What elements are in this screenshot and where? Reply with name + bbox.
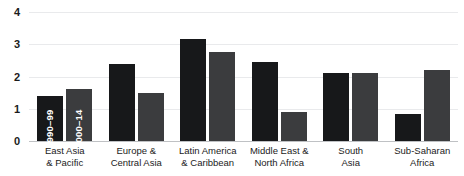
bar-south-asia-1990-99[interactable] xyxy=(323,73,349,141)
axis-baseline: 0 xyxy=(29,141,458,142)
bar-latin-america-caribbean-2000-14[interactable] xyxy=(209,52,235,141)
bar-group-south-asia xyxy=(315,12,387,141)
ytick-label-1: 1 xyxy=(14,103,20,114)
legend-label-1990-99: 1990–99 xyxy=(46,109,56,147)
category-label-middle-east-north-africa: Middle East & North Africa xyxy=(244,145,316,175)
bar-sub-saharan-africa-2000-14[interactable] xyxy=(424,70,450,141)
bar-middle-east-north-africa-2000-14[interactable] xyxy=(281,112,307,141)
category-label-sub-saharan-africa: Sub-Saharan Africa xyxy=(387,145,459,175)
bar-sub-saharan-africa-1990-99[interactable] xyxy=(395,114,421,141)
bar-europe-central-asia-2000-14[interactable] xyxy=(138,93,164,141)
legend-label-2000-14: 2000–14 xyxy=(75,109,85,147)
bar-group-europe-central-asia xyxy=(101,12,173,141)
bar-south-asia-2000-14[interactable] xyxy=(352,73,378,141)
category-label-latin-america-caribbean: Latin America & Caribbean xyxy=(172,145,244,175)
bar-latin-america-caribbean-1990-99[interactable] xyxy=(180,39,206,141)
bar-group-middle-east-north-africa xyxy=(244,12,316,141)
bar-group-sub-saharan-africa xyxy=(387,12,459,141)
ytick-label-2: 2 xyxy=(14,71,20,82)
ytick-label-4: 4 xyxy=(14,7,20,18)
bar-groups: 1990–99 2000–14 xyxy=(29,12,458,141)
bar-group-east-asia-pacific: 1990–99 2000–14 xyxy=(29,12,101,141)
category-label-south-asia: South Asia xyxy=(315,145,387,175)
category-label-europe-central-asia: Europe & Central Asia xyxy=(101,145,173,175)
bar-east-asia-pacific-1990-99[interactable]: 1990–99 xyxy=(37,96,63,141)
bar-east-asia-pacific-2000-14[interactable]: 2000–14 xyxy=(66,89,92,141)
bar-chart: 4 3 2 1 0 1990–99 2000–14 xyxy=(0,0,464,176)
category-axis: East Asia & Pacific Europe & Central Asi… xyxy=(29,145,458,175)
plot-area: 4 3 2 1 0 1990–99 2000–14 xyxy=(29,12,458,141)
bar-middle-east-north-africa-1990-99[interactable] xyxy=(252,62,278,141)
category-label-east-asia-pacific: East Asia & Pacific xyxy=(29,145,101,175)
ytick-label-3: 3 xyxy=(14,39,20,50)
bar-europe-central-asia-1990-99[interactable] xyxy=(109,64,135,141)
ytick-label-0: 0 xyxy=(14,136,20,147)
bar-group-latin-america-caribbean xyxy=(172,12,244,141)
